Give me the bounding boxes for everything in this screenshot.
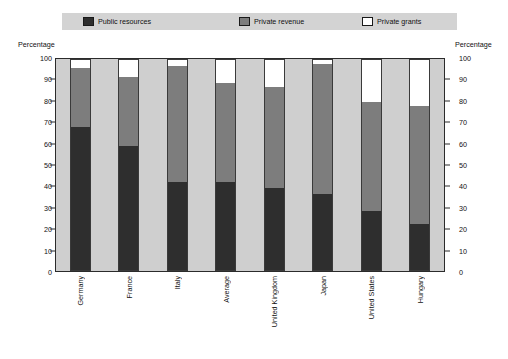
bar-segment-private-grants <box>362 60 381 102</box>
bar-group <box>215 59 236 271</box>
y-tick-mark-left <box>50 143 55 144</box>
stacked-bar <box>361 59 382 271</box>
y-tick-mark-right <box>445 122 450 123</box>
y-tick-label-right: 40 <box>459 182 467 191</box>
stacked-bar <box>312 59 333 271</box>
y-tick-mark-right <box>445 100 450 101</box>
x-axis-label: Average <box>222 276 231 303</box>
y-tick-label-right: 30 <box>459 203 467 212</box>
y-tick-mark-right <box>445 229 450 230</box>
legend-entry-private-revenue: Private revenue <box>239 13 304 30</box>
chart-figure: Public resources Private revenue Private… <box>0 0 508 359</box>
y-tick-label-right: 100 <box>459 54 471 63</box>
legend-swatch-private-grants <box>362 17 373 26</box>
stacked-bar <box>167 59 188 271</box>
x-axis-label: United States <box>367 276 376 319</box>
bar-group <box>312 59 333 271</box>
bar-segment-private-revenue <box>265 87 284 188</box>
y-tick-mark-left <box>50 250 55 251</box>
y-tick-mark-left <box>50 229 55 230</box>
bar-segment-public-resources <box>410 224 429 270</box>
x-axis-label: France <box>125 276 134 298</box>
y-axis-title-right: Percentage <box>455 40 492 49</box>
y-axis-title-left: Percentage <box>18 40 55 49</box>
stacked-bar <box>409 59 430 271</box>
bar-segment-public-resources <box>362 211 381 270</box>
y-tick-label-right: 90 <box>459 75 467 84</box>
legend-label-private-grants: Private grants <box>377 18 421 25</box>
bar-segment-private-revenue <box>119 77 138 146</box>
bar-segment-private-revenue <box>216 83 235 182</box>
bar-segment-private-revenue <box>168 66 187 182</box>
x-axis-label: Italy <box>173 276 182 289</box>
stacked-bar <box>264 59 285 271</box>
y-tick-mark-right <box>445 79 450 80</box>
legend-swatch-private-revenue <box>239 17 250 26</box>
bar-series-container <box>56 59 444 271</box>
bar-segment-private-grants <box>216 60 235 83</box>
stacked-bar <box>70 59 91 271</box>
y-tick-label-left: 0 <box>48 268 52 277</box>
stacked-bar <box>215 59 236 271</box>
y-tick-mark-right <box>445 250 450 251</box>
x-axis-label: Hungary <box>416 276 425 303</box>
y-tick-label-left: 100 <box>40 54 52 63</box>
bar-segment-public-resources <box>119 146 138 270</box>
bar-group <box>167 59 188 271</box>
bar-group <box>70 59 91 271</box>
y-tick-mark-right <box>445 165 450 166</box>
bar-group <box>409 59 430 271</box>
bar-segment-public-resources <box>265 188 284 270</box>
chart-legend: Public resources Private revenue Private… <box>62 13 457 30</box>
y-tick-label-right: 80 <box>459 96 467 105</box>
y-tick-mark-left <box>50 122 55 123</box>
y-tick-label-right: 0 <box>459 268 463 277</box>
y-tick-label-right: 60 <box>459 139 467 148</box>
y-tick-mark-left <box>50 165 55 166</box>
legend-entry-private-grants: Private grants <box>362 13 421 30</box>
bar-segment-private-grants <box>410 60 429 106</box>
y-tick-label-right: 70 <box>459 118 467 127</box>
bar-segment-public-resources <box>216 182 235 270</box>
bar-segment-private-revenue <box>313 64 332 194</box>
y-tick-mark-right <box>445 207 450 208</box>
bar-segment-private-grants <box>119 60 138 77</box>
bar-group <box>264 59 285 271</box>
y-tick-mark-left <box>50 100 55 101</box>
y-tick-label-right: 50 <box>459 161 467 170</box>
bar-segment-private-revenue <box>362 102 381 211</box>
y-tick-mark-left <box>50 79 55 80</box>
legend-label-public-resources: Public resources <box>98 18 151 25</box>
y-tick-label-right: 20 <box>459 225 467 234</box>
bar-segment-private-revenue <box>71 68 90 127</box>
bar-segment-private-revenue <box>410 106 429 224</box>
y-tick-mark-right <box>445 143 450 144</box>
bar-segment-private-grants <box>71 60 90 68</box>
x-axis-label: Japan <box>319 276 328 296</box>
stacked-bar <box>118 59 139 271</box>
x-axis-label: Germany <box>76 276 85 306</box>
bar-group <box>118 59 139 271</box>
bar-segment-public-resources <box>313 194 332 270</box>
bar-group <box>361 59 382 271</box>
legend-swatch-public-resources <box>83 17 94 26</box>
y-tick-mark-left <box>50 186 55 187</box>
y-tick-mark-right <box>445 186 450 187</box>
bar-segment-public-resources <box>168 182 187 270</box>
y-tick-mark-left <box>50 207 55 208</box>
y-tick-label-right: 10 <box>459 246 467 255</box>
bar-segment-private-grants <box>265 60 284 87</box>
x-axis-label: United Kingdom <box>270 276 279 327</box>
legend-entry-public-resources: Public resources <box>83 13 151 30</box>
legend-label-private-revenue: Private revenue <box>254 18 304 25</box>
bar-segment-public-resources <box>71 127 90 270</box>
